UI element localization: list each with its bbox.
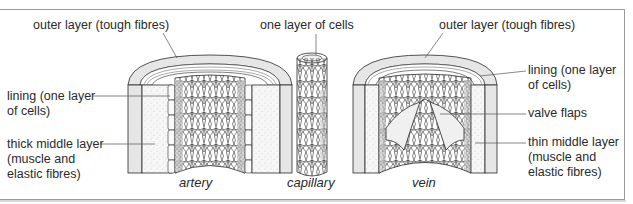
vein-outer-layer-label: outer layer (tough fibres): [439, 18, 575, 33]
vein-middle-layer-label-line1: thin middle layer: [528, 135, 619, 150]
artery-outer-layer-label: outer layer (tough fibres): [33, 18, 169, 33]
artery-middle-layer-label-line3: elastic fibres): [7, 167, 81, 182]
capillary-illustration: [297, 53, 327, 176]
vein-middle-layer-label-line2: (muscle and: [528, 150, 596, 165]
vein-caption: vein: [412, 175, 436, 190]
artery-caption: artery: [179, 175, 212, 190]
vein-valve-flaps-label: valve flaps: [528, 106, 587, 121]
artery-illustration: [128, 55, 292, 173]
capillary-caption: capillary: [287, 175, 335, 190]
vein-lining-label-line1: lining (one layer: [528, 63, 616, 78]
capillary-wall-label: one layer of cells: [260, 18, 354, 33]
vein-middle-layer-label-line3: elastic fibres): [528, 165, 602, 180]
vein-lining-label-line2: of cells): [528, 78, 571, 93]
artery-lining-label-line1: lining (one layer: [7, 89, 95, 104]
artery-middle-layer-label-line1: thick middle layer: [7, 137, 104, 152]
artery-lining-label-line2: of cells): [7, 104, 50, 119]
artery-middle-layer-label-line2: (muscle and: [7, 152, 75, 167]
